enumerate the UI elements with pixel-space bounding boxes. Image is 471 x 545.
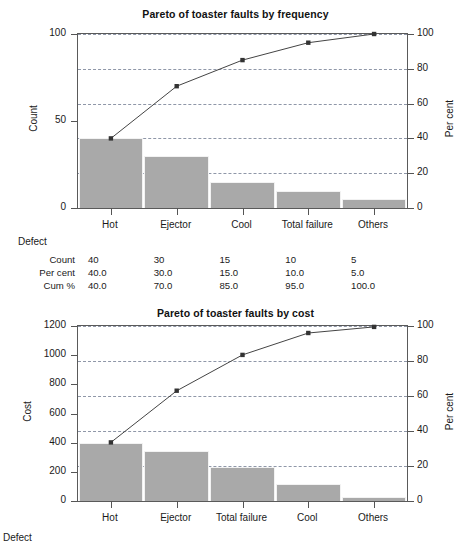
y-tick xyxy=(71,414,77,415)
x-tick xyxy=(374,501,375,508)
cumulative-marker xyxy=(175,389,179,393)
cumulative-marker xyxy=(372,325,376,329)
cumulative-marker xyxy=(109,440,113,444)
table-cell: 40.0 xyxy=(88,281,107,291)
table-cell: 10.0 xyxy=(285,268,304,278)
data-table-frequency: Count403015105Per cent40.030.015.010.05.… xyxy=(0,0,471,300)
pareto-chart-frequency: Pareto of toaster faults by frequency Co… xyxy=(0,0,471,300)
table-cell: 70.0 xyxy=(154,281,173,291)
y-tick xyxy=(71,443,77,444)
x-tick-label: Total failure xyxy=(282,219,333,230)
y2-tick-label: 100 xyxy=(417,28,434,38)
table-cell: 85.0 xyxy=(220,281,239,291)
cumulative-marker xyxy=(240,353,244,357)
y-tick xyxy=(71,501,77,502)
table-cell: 15 xyxy=(220,255,231,265)
x-tick-label: Hot xyxy=(102,219,118,230)
x-tick xyxy=(308,501,309,508)
x-tick xyxy=(177,501,178,508)
table-cell: 10 xyxy=(285,255,296,265)
table-cell: 30 xyxy=(154,255,165,265)
y2-tick-label: 40 xyxy=(417,132,428,142)
y2-tick xyxy=(408,326,414,327)
x-tick xyxy=(243,501,244,508)
y2-tick xyxy=(408,361,414,362)
y2-tick-label: 80 xyxy=(417,355,428,365)
y-tick-label: 0 xyxy=(20,202,66,212)
y2-axis-label-percent-cost: Per cent xyxy=(444,387,455,437)
y2-tick-label: 0 xyxy=(417,495,423,505)
x-tick-label: Others xyxy=(358,512,388,523)
x-tick-label: Ejector xyxy=(160,512,191,523)
y2-tick-label: 20 xyxy=(417,167,428,177)
x-tick xyxy=(111,501,112,508)
y-tick-label: 100 xyxy=(20,28,66,38)
y-tick-label: 1000 xyxy=(20,349,66,359)
chart-title-cost: Pareto of toaster faults by cost xyxy=(0,307,471,319)
table-cell: 40 xyxy=(88,255,99,265)
table-cell: 95.0 xyxy=(285,281,304,291)
y2-tick-label: 60 xyxy=(417,98,428,108)
y2-tick-label: 80 xyxy=(417,63,428,73)
y2-tick xyxy=(408,431,414,432)
x-tick-label: Total failure xyxy=(216,512,267,523)
x-tick-label: Cool xyxy=(297,512,318,523)
y-tick-label: 600 xyxy=(20,408,66,418)
table-row-label: Per cent xyxy=(0,268,75,278)
table-cell: 30.0 xyxy=(154,268,173,278)
y-tick-label: 50 xyxy=(20,115,66,125)
pareto-chart-cost: Pareto of toaster faults by cost Cost Pe… xyxy=(0,300,471,545)
y2-tick-label: 60 xyxy=(417,390,428,400)
table-row-label: Count xyxy=(0,255,75,265)
y2-tick xyxy=(408,501,414,502)
plot-area-cost xyxy=(77,325,408,502)
y2-tick-label: 100 xyxy=(417,320,434,330)
table-row-label: Cum % xyxy=(0,281,75,291)
y2-tick xyxy=(408,396,414,397)
x-axis-label-defect-cost: Defect xyxy=(3,532,32,543)
table-cell: 40.0 xyxy=(88,268,107,278)
cumulative-marker xyxy=(306,331,310,335)
y2-tick-label: 0 xyxy=(417,202,423,212)
y2-tick-label: 20 xyxy=(417,460,428,470)
y-tick-label: 800 xyxy=(20,378,66,388)
x-tick-label: Hot xyxy=(102,512,118,523)
y-tick-label: 200 xyxy=(20,466,66,476)
table-cell: 5 xyxy=(351,255,356,265)
table-cell: 5.0 xyxy=(351,268,364,278)
y-tick xyxy=(71,326,77,327)
y2-tick xyxy=(408,466,414,467)
y2-tick-label: 40 xyxy=(417,425,428,435)
cumulative-line xyxy=(78,326,407,501)
y-tick-label: 1200 xyxy=(20,320,66,330)
y-tick-label: 0 xyxy=(20,495,66,505)
x-tick-label: Cool xyxy=(231,219,252,230)
x-tick-label: Ejector xyxy=(160,219,191,230)
table-cell: 15.0 xyxy=(220,268,239,278)
y-tick xyxy=(71,355,77,356)
y-tick xyxy=(71,384,77,385)
table-cell: 100.0 xyxy=(351,281,375,291)
x-tick-label: Others xyxy=(358,219,388,230)
y-tick-label: 400 xyxy=(20,437,66,447)
y-tick xyxy=(71,472,77,473)
